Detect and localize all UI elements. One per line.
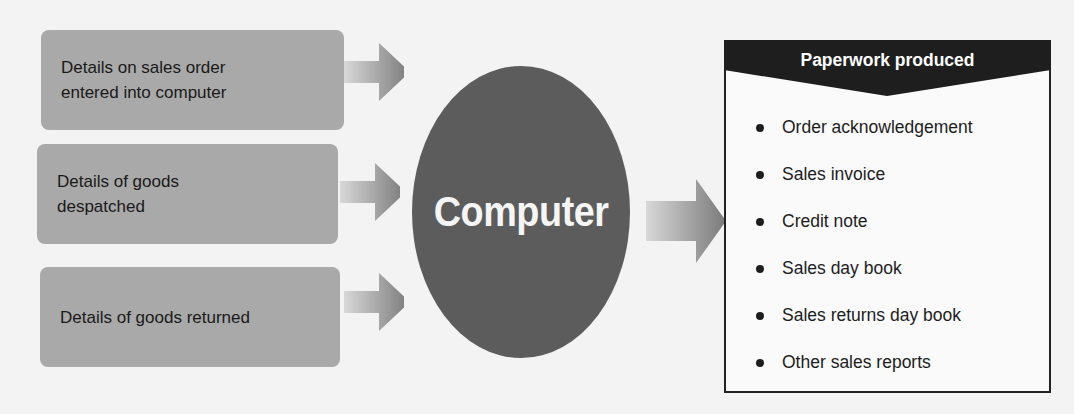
computer-label: Computer (434, 188, 609, 236)
input-label-line: Details of goods returned (60, 305, 320, 330)
input-label-line: Details on sales order (61, 55, 324, 80)
panel-title: Paperwork produced (726, 50, 1049, 71)
input-label-line: despatched (57, 194, 318, 219)
input-box-goods-despatched: Details of goods despatched (37, 144, 338, 244)
list-item: Credit note (756, 211, 973, 258)
paperwork-list: Order acknowledgement Sales invoice Cred… (756, 117, 973, 399)
list-item: Sales day book (756, 258, 973, 305)
input-box-goods-returned: Details of goods returned (40, 267, 340, 367)
arrow-right-icon (344, 43, 404, 103)
paperwork-panel: Paperwork produced Order acknowledgement… (724, 40, 1051, 393)
list-item: Other sales reports (756, 352, 973, 399)
list-item: Sales invoice (756, 164, 973, 211)
input-label-line: Details of goods (57, 169, 318, 194)
arrow-right-icon (340, 163, 400, 223)
list-item: Sales returns day book (756, 305, 973, 352)
bullet-icon (756, 312, 764, 320)
arrow-right-icon (344, 273, 404, 333)
bullet-icon (756, 265, 764, 273)
bullet-icon (756, 171, 764, 179)
computer-node: Computer (412, 66, 630, 358)
input-box-sales-order: Details on sales order entered into comp… (41, 30, 344, 130)
bullet-icon (756, 218, 764, 226)
bullet-icon (756, 359, 764, 367)
arrow-right-icon (646, 179, 726, 263)
list-item: Order acknowledgement (756, 117, 973, 164)
input-label-line: entered into computer (61, 80, 324, 105)
bullet-icon (756, 124, 764, 132)
